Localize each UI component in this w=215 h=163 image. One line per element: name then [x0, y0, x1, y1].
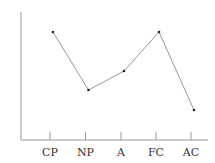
x-tick-label: FC [148, 146, 164, 159]
data-point-marker [87, 89, 90, 92]
x-tick-label: A [116, 146, 126, 159]
data-point-marker [158, 31, 161, 34]
x-tick-label: AC [182, 146, 199, 159]
x-axis: CPNPAFCAC [21, 132, 208, 159]
data-point-marker [123, 70, 126, 73]
data-series [52, 31, 196, 112]
data-point-marker [52, 31, 55, 34]
data-point-marker [193, 109, 196, 112]
line-chart: CPNPAFCAC [0, 0, 215, 163]
x-tick-label: NP [77, 146, 95, 159]
x-tick-label: CP [42, 146, 58, 159]
